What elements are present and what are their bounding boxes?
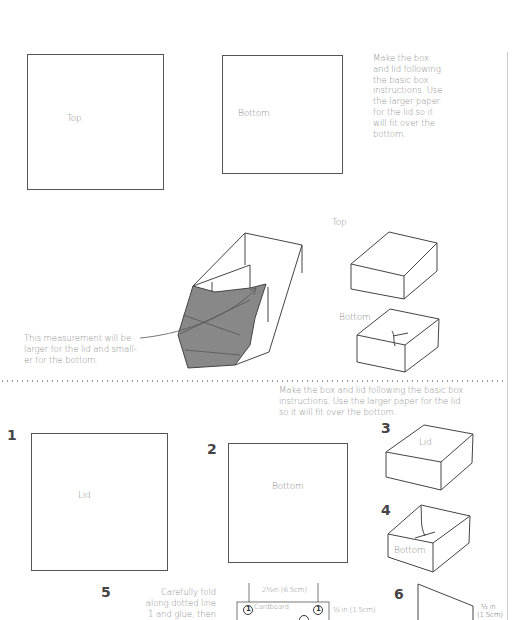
cardboard-material-label: Cardboard — [254, 603, 289, 611]
step-6-dim-line2: (1.5cm) — [477, 611, 503, 619]
cardboard-diagram — [0, 0, 513, 620]
step-6-number: 6 — [394, 586, 404, 602]
cardboard-height-label: ½ in (1.5cm) — [333, 606, 375, 614]
step-6-dim-line1: ½ in — [481, 603, 496, 611]
cardboard-marker-2: 1 — [316, 605, 321, 613]
cardboard-marker-1: 1 — [246, 605, 251, 613]
cardboard-width-label: 2½in (6.5cm) — [262, 586, 307, 594]
